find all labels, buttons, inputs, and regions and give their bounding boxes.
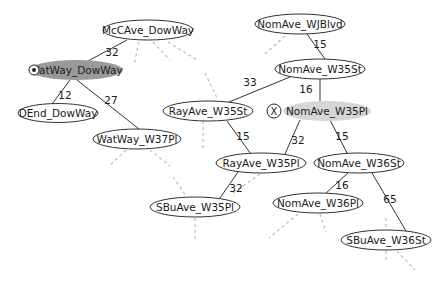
edge-WatWay_DowWay-WatWay_W37Pl: 27 bbox=[77, 80, 139, 129]
node-WatWay_DowWay[interactable]: WatWay_DowWay bbox=[29, 60, 123, 80]
radio-dot-icon bbox=[29, 65, 39, 75]
node-label: NomAve_W36St bbox=[317, 157, 401, 170]
edge-weight-label: 32 bbox=[291, 134, 304, 146]
node-label: NomAve_WJBlvd bbox=[257, 18, 342, 31]
node-label: WatWay_DowWay bbox=[29, 64, 122, 77]
edge-weight-label: 15 bbox=[335, 130, 348, 142]
node-label: NomAve_W35Pl bbox=[286, 105, 368, 118]
graph-canvas: 321227153316153215321665 McCAve_DowWayWa… bbox=[0, 0, 448, 281]
edge-NomAve_WJBlvd-NomAve_W35St: 15 bbox=[307, 34, 327, 59]
edge-RayAve_W35St-RayAve_W35Pl: 15 bbox=[227, 121, 251, 154]
node-RayAve_W35Pl[interactable]: RayAve_W35Pl bbox=[216, 153, 306, 173]
nodes: McCAve_DowWayWatWay_DowWayDEnd_DowWayWat… bbox=[18, 14, 431, 250]
node-NomAve_W35Pl[interactable]: NomAve_W35Pl bbox=[283, 101, 371, 121]
edge-NomAve_W35Pl-NomAve_W36St: 15 bbox=[330, 120, 349, 153]
edge-weight-label: 32 bbox=[105, 46, 118, 58]
node-McCAve_DowWay[interactable]: McCAve_DowWay bbox=[102, 20, 194, 40]
road-network-diagram: 321227153316153215321665 McCAve_DowWayWa… bbox=[0, 0, 448, 281]
edge-line bbox=[229, 77, 290, 102]
node-label: DEnd_DowWay bbox=[19, 107, 98, 120]
edge-weight-label: 27 bbox=[104, 94, 117, 106]
edge-weight-label: 65 bbox=[383, 193, 396, 205]
dashed-edge bbox=[150, 150, 170, 166]
edge-weight-label: 15 bbox=[313, 38, 326, 50]
dashed-edge bbox=[397, 251, 415, 270]
x-circle-icon: X bbox=[267, 104, 281, 118]
dashed-edge bbox=[110, 150, 126, 165]
edge-weight-label: 16 bbox=[299, 83, 313, 95]
node-label: SBuAve_W36St bbox=[346, 234, 426, 247]
node-NomAve_WJBlvd[interactable]: NomAve_WJBlvd bbox=[255, 14, 345, 34]
edge-NomAve_W36St-SBuAve_W36St: 65 bbox=[372, 173, 406, 231]
dashed-edge bbox=[173, 177, 186, 196]
dashed-edge bbox=[320, 214, 326, 232]
dashed-edge bbox=[168, 42, 197, 60]
node-label: NomAve_W36Pl bbox=[277, 197, 359, 210]
edge-weight-label: 32 bbox=[229, 182, 242, 194]
dashed-edge bbox=[269, 214, 298, 238]
edge-weight-label: 12 bbox=[58, 89, 71, 101]
target-marker-label: X bbox=[271, 106, 278, 117]
node-SBuAve_W36St[interactable]: SBuAve_W36St bbox=[341, 230, 431, 250]
node-NomAve_W35St[interactable]: NomAve_W35St bbox=[275, 59, 365, 79]
node-NomAve_W36Pl[interactable]: NomAve_W36Pl bbox=[273, 193, 363, 213]
edge-RayAve_W35Pl-SBuAve_W35Pl: 32 bbox=[220, 172, 243, 198]
edge-NomAve_W36St-NomAve_W36Pl: 16 bbox=[325, 173, 349, 194]
edge-weight-label: 16 bbox=[335, 179, 349, 191]
node-WatWay_W37Pl[interactable]: WatWay_W37Pl bbox=[93, 129, 181, 149]
node-SBuAve_W35Pl[interactable]: SBuAve_W35Pl bbox=[150, 197, 240, 217]
edge-WatWay_DowWay-DEnd_DowWay: 12 bbox=[52, 80, 72, 104]
node-DEnd_DowWay[interactable]: DEnd_DowWay bbox=[18, 104, 98, 123]
dashed-edge bbox=[134, 42, 139, 65]
dashed-edge bbox=[265, 36, 285, 54]
edge-McCAve_DowWay-WatWay_DowWay: 32 bbox=[88, 40, 127, 61]
node-label: SBuAve_W35Pl bbox=[156, 201, 234, 214]
node-label: NomAve_W35St bbox=[278, 63, 362, 76]
node-RayAve_W35St[interactable]: RayAve_W35St bbox=[163, 101, 253, 121]
dashed-edge bbox=[205, 73, 218, 100]
edge-NomAve_W35Pl-RayAve_W35Pl: 32 bbox=[285, 120, 305, 154]
edge-weight-label: 15 bbox=[236, 130, 249, 142]
edge-weight-label: 33 bbox=[243, 76, 256, 88]
node-label: RayAve_W35St bbox=[169, 105, 248, 118]
node-label: WatWay_W37Pl bbox=[97, 133, 178, 146]
node-label: McCAve_DowWay bbox=[102, 24, 194, 37]
edge-NomAve_W35St-NomAve_W35Pl: 16 bbox=[299, 79, 320, 101]
dashed-edge bbox=[153, 42, 170, 60]
node-NomAve_W36St[interactable]: NomAve_W36St bbox=[314, 153, 404, 173]
edge-NomAve_W35St-RayAve_W35St: 33 bbox=[229, 76, 290, 102]
node-label: RayAve_W35Pl bbox=[222, 157, 299, 170]
